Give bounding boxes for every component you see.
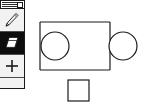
tool-button-eraser[interactable] <box>0 32 24 55</box>
tool-button-crosshair[interactable] <box>0 55 24 78</box>
shape-small-square <box>68 80 89 101</box>
left-notch-circle <box>41 32 69 60</box>
close-box[interactable] <box>17 2 23 8</box>
drawing-canvas[interactable] <box>25 0 155 110</box>
tool-palette-titlebar[interactable] <box>0 0 25 9</box>
app-window <box>0 0 155 110</box>
shape-puzzle-piece <box>40 22 137 70</box>
tool-palette <box>0 0 25 89</box>
tool-palette-filler <box>0 78 24 88</box>
canvas-drawing <box>25 0 155 110</box>
right-tab-circle <box>109 32 137 60</box>
tool-button-pencil[interactable] <box>0 9 24 32</box>
